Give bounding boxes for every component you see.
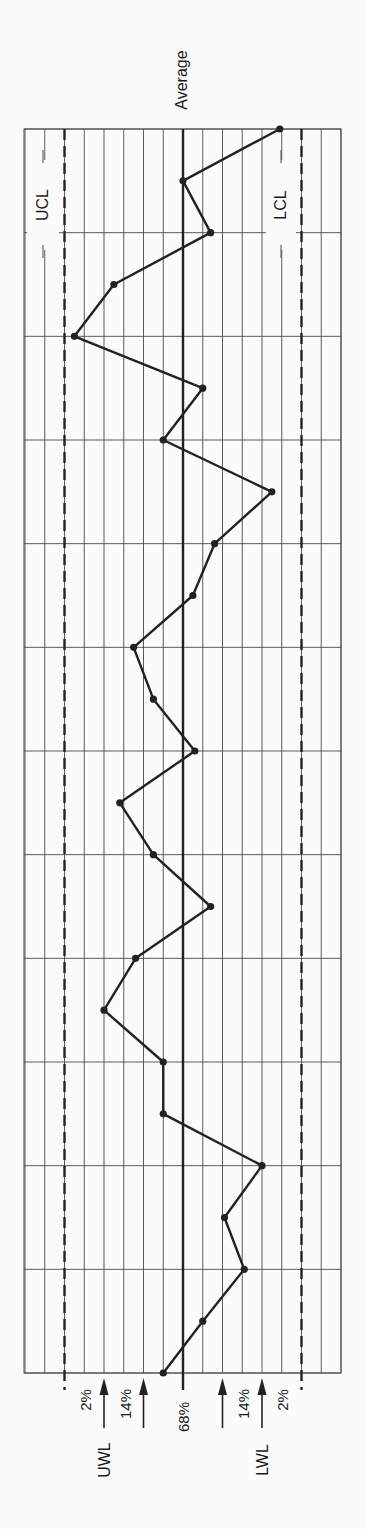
data-point xyxy=(207,229,214,236)
data-point xyxy=(276,125,283,132)
zone-annotations xyxy=(27,150,296,1428)
data-point xyxy=(268,488,275,495)
data-point xyxy=(211,540,218,547)
zone-label-upper-outer: 2% xyxy=(78,1389,93,1411)
data-point xyxy=(116,799,123,806)
data-point xyxy=(199,1318,206,1325)
ucl-label: UCL xyxy=(35,185,51,225)
data-point xyxy=(150,851,157,858)
data-point xyxy=(150,696,157,703)
data-point xyxy=(221,1214,228,1221)
data-point xyxy=(130,644,137,651)
data-point xyxy=(160,1110,167,1117)
data-point xyxy=(189,592,196,599)
data-point xyxy=(132,955,139,962)
zone-arrow-head xyxy=(100,1378,109,1395)
data-point xyxy=(110,281,117,288)
zone-label-lower-outer: 2% xyxy=(275,1389,290,1411)
uwl-label: UWL xyxy=(97,1442,113,1478)
average-label: Average xyxy=(174,50,190,109)
data-point xyxy=(241,1266,248,1273)
zone-label-upper-middle: 14% xyxy=(118,1389,133,1419)
data-point xyxy=(160,1058,167,1065)
data-point xyxy=(160,1369,167,1376)
control-chart xyxy=(0,0,366,1529)
data-point xyxy=(199,385,206,392)
data-point xyxy=(258,1162,265,1169)
zone-label-center: 68% xyxy=(176,1402,191,1432)
zone-arrow-head xyxy=(258,1378,267,1395)
data-point xyxy=(207,903,214,910)
zone-arrow-head xyxy=(218,1378,227,1395)
data-point xyxy=(71,333,78,340)
zone-label-lower-middle: 14% xyxy=(236,1389,251,1419)
lwl-label: LWL xyxy=(255,1444,271,1476)
data-point xyxy=(160,436,167,443)
data-point xyxy=(100,1007,107,1014)
lcl-label: LCL xyxy=(273,186,289,223)
data-point xyxy=(179,177,186,184)
zone-arrow-head xyxy=(139,1378,148,1395)
data-point xyxy=(191,747,198,754)
